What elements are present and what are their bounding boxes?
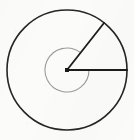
center-vertex-dot bbox=[65, 68, 69, 72]
angle-diagram-figure: Angle formed by two radii in a circle ci… bbox=[0, 0, 134, 140]
upper-radius-ray bbox=[67, 23, 104, 70]
diagram-canvas bbox=[0, 0, 134, 140]
